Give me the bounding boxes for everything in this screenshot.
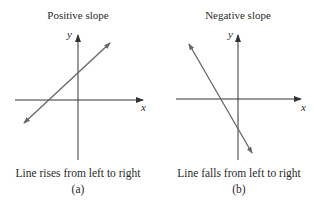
- panel-a-title: Positive slope: [18, 9, 138, 21]
- panel-a-graph: [15, 35, 143, 160]
- panel-a-label: (a): [58, 183, 98, 195]
- panel-b-graph: [176, 35, 301, 160]
- panel-b-title: Negative slope: [178, 9, 298, 21]
- panel-b-label: (b): [219, 183, 259, 195]
- panel-a-y-axis-label: y: [67, 28, 72, 40]
- panel-a-x-axis-label: x: [141, 101, 146, 113]
- panel-b-caption: Line falls from left to right: [164, 167, 314, 179]
- panel-b-x-axis-label: x: [301, 101, 306, 113]
- panel-b-y-axis-label: y: [228, 28, 233, 40]
- panel-a-caption: Line rises from left to right: [3, 167, 153, 179]
- panel-a-positive-slope-line: [24, 43, 110, 123]
